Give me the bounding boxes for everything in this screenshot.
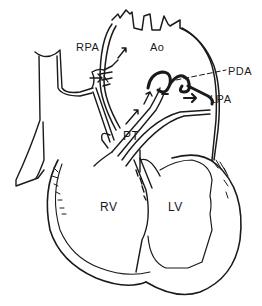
label-ao: Ao	[150, 42, 164, 53]
septum	[134, 158, 152, 272]
label-lv: LV	[168, 201, 183, 213]
rv-wall	[47, 160, 150, 285]
label-rv: RV	[100, 201, 117, 213]
label-pt: PT	[123, 130, 139, 142]
lv-trabeculations	[212, 160, 228, 198]
heart-drawing	[0, 0, 262, 306]
pda-swirl	[148, 72, 213, 104]
label-lpa: LPA	[210, 94, 231, 105]
heart-diagram: RPA Ao PDA LPA PT RV LV	[0, 0, 262, 306]
label-pda: PDA	[228, 66, 252, 77]
label-rpa: RPA	[76, 42, 99, 53]
aorta-outline	[100, 10, 219, 160]
